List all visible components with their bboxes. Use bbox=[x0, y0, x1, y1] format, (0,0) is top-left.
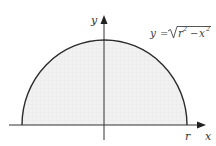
r-label: r bbox=[185, 130, 191, 143]
x-axis-arrow-icon bbox=[197, 122, 206, 129]
y-axis-arrow-icon bbox=[101, 15, 108, 24]
equation: y = r 2 − x 2 bbox=[149, 25, 211, 39]
radicand-exp1: 2 bbox=[182, 25, 187, 33]
equation-equals: = bbox=[160, 28, 168, 39]
radicand-exp2: 2 bbox=[205, 25, 210, 33]
radicand-minus: − bbox=[190, 28, 198, 39]
y-axis-label: y bbox=[90, 14, 98, 27]
x-axis-label: x bbox=[205, 130, 212, 143]
semicircle-diagram: y x r y = r 2 − x 2 bbox=[0, 0, 216, 146]
radicand-x: x bbox=[199, 27, 205, 39]
equation-lhs: y bbox=[149, 27, 157, 39]
